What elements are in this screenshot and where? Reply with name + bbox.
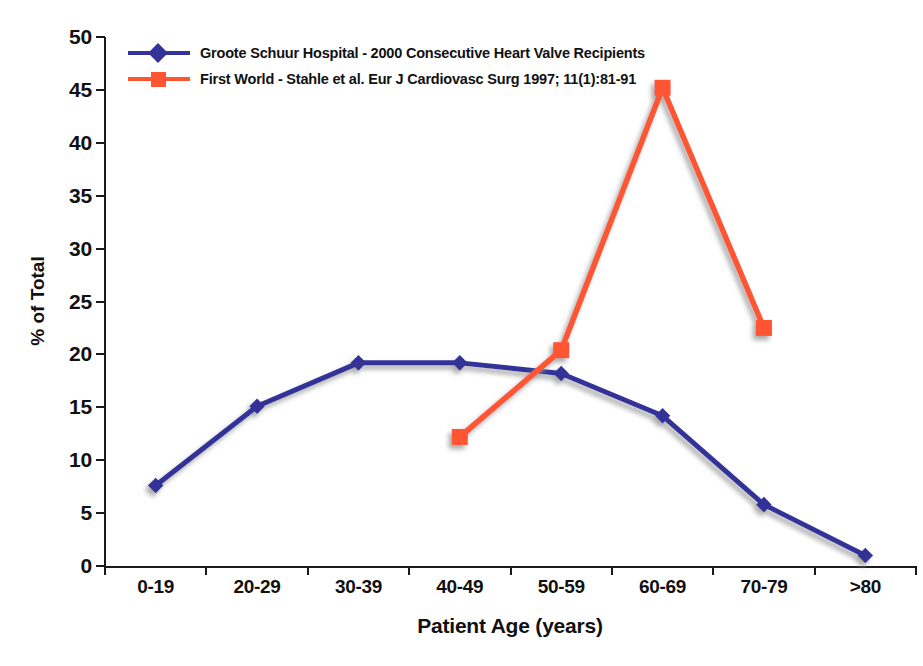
data-point-marker — [351, 355, 367, 371]
series-2 — [452, 80, 772, 445]
data-point-marker — [756, 320, 772, 336]
data-point-marker — [452, 429, 468, 445]
legend-item-label: Groote Schuur Hospital - 2000 Consecutiv… — [200, 45, 645, 61]
data-point-marker — [655, 80, 671, 96]
legend-item[interactable]: First World - Stahle et al. Eur J Cardio… — [128, 66, 645, 92]
data-point-marker — [452, 355, 468, 371]
line-chart: 05101520253035404550 0-1920-2930-3940-49… — [0, 0, 923, 666]
legend-key-icon — [128, 43, 190, 63]
legend-item-label: First World - Stahle et al. Eur J Cardio… — [200, 71, 636, 87]
data-point-marker — [553, 366, 569, 382]
chart-legend: Groote Schuur Hospital - 2000 Consecutiv… — [128, 40, 645, 92]
series-line — [460, 88, 764, 437]
legend-key-icon — [128, 69, 190, 89]
legend-item[interactable]: Groote Schuur Hospital - 2000 Consecutiv… — [128, 40, 645, 66]
series-1 — [148, 355, 873, 563]
data-point-marker — [553, 342, 569, 358]
plot-area — [0, 0, 923, 666]
